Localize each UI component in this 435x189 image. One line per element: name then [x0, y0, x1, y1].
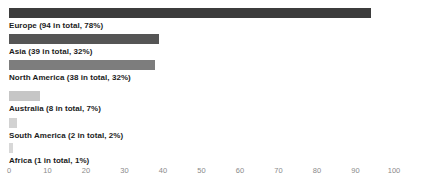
x-axis-tick-0: 0	[7, 166, 11, 176]
bar-europe[interactable]	[9, 8, 371, 18]
x-axis-tick-30: 30	[120, 166, 128, 176]
bar-label-europe: Europe (94 in total, 78%)	[9, 20, 103, 31]
bar-africa[interactable]	[9, 143, 13, 153]
x-axis-tick-60: 60	[236, 166, 244, 176]
bar-asia[interactable]	[9, 34, 159, 44]
bar-label-australia: Australia (8 in total, 7%)	[9, 103, 101, 114]
x-axis-tick-90: 90	[351, 166, 359, 176]
bar-row-south-america: South America (2 in total, 2%)	[0, 118, 435, 144]
bar-label-africa: Africa (1 in total, 1%)	[9, 155, 89, 166]
bar-row-australia: Australia (8 in total, 7%)	[0, 91, 435, 117]
x-axis-tick-20: 20	[82, 166, 90, 176]
x-axis-tick-10: 10	[43, 166, 51, 176]
bar-australia[interactable]	[9, 91, 40, 101]
bar-label-asia: Asia (39 in total, 32%)	[9, 46, 92, 57]
bar-row-asia: Asia (39 in total, 32%)	[0, 34, 435, 60]
bar-label-south-america: South America (2 in total, 2%)	[9, 130, 123, 141]
plot-area: Europe (94 in total, 78%) Asia (39 in to…	[0, 0, 435, 163]
x-axis-tick-80: 80	[313, 166, 321, 176]
bar-row-europe: Europe (94 in total, 78%)	[0, 8, 435, 34]
x-axis: 0102030405060708090100	[0, 166, 435, 180]
horizontal-bar-chart: Europe (94 in total, 78%) Asia (39 in to…	[0, 0, 435, 189]
x-axis-tick-50: 50	[197, 166, 205, 176]
bar-row-north-america: North America (38 in total, 32%)	[0, 60, 435, 86]
bar-north-america[interactable]	[9, 60, 155, 70]
x-axis-tick-100: 100	[388, 166, 401, 176]
x-axis-tick-70: 70	[274, 166, 282, 176]
x-axis-tick-40: 40	[159, 166, 167, 176]
bar-label-north-america: North America (38 in total, 32%)	[9, 72, 131, 83]
bar-south-america[interactable]	[9, 118, 17, 128]
